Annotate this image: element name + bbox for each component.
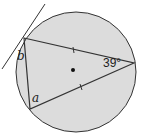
angle-a-label: a: [32, 91, 39, 105]
angle-b-label: b: [17, 49, 25, 63]
center-dot: [71, 68, 75, 72]
circle-theorem-diagram: 39° b a: [0, 0, 145, 139]
circle: [16, 12, 136, 132]
angle-39-label: 39°: [103, 56, 121, 70]
